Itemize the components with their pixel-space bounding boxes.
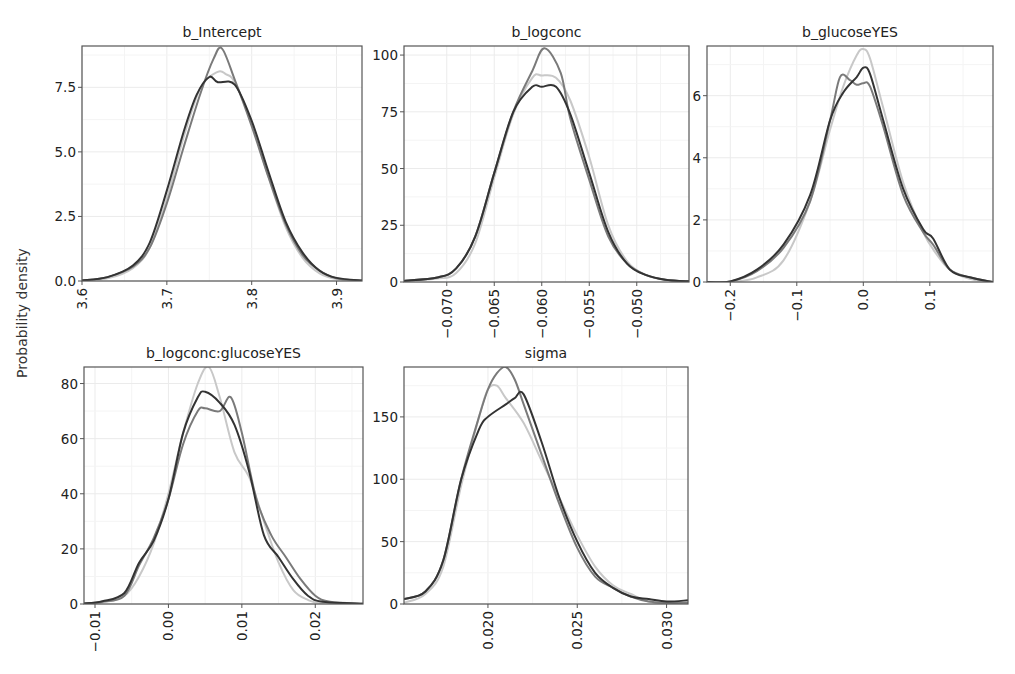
panel-title: b_Intercept [182,24,262,40]
y-tick-label: 40 [61,486,78,502]
x-tick-label: 3.8 [244,288,260,309]
y-tick-label: 100 [372,47,398,63]
x-tick-label: −0.1 [789,289,805,322]
y-tick-label: 25 [381,217,398,233]
panel-title: sigma [525,345,567,361]
x-tick-label: 0.0 [855,289,871,310]
y-tick-label: 4 [692,150,701,166]
panel-title: b_glucoseYES [802,24,898,40]
y-tick-label: 100 [372,471,398,487]
panel-b-logconc: b_logconc0255075100−0.070−0.065−0.060−0.… [372,24,689,339]
x-tick-label: −0.055 [581,289,597,339]
x-tick-label: 0.01 [234,611,250,641]
x-tick-label: −0.01 [87,611,103,652]
y-tick-label: 75 [381,104,398,120]
panel-b-intercept: b_Intercept0.02.55.07.53.63.73.83.9 [55,24,362,309]
y-tick-label: 150 [372,409,398,425]
y-tick-label: 50 [381,534,398,550]
y-tick-label: 20 [61,541,78,557]
y-tick-label: 0.0 [55,273,76,289]
x-tick-label: 0.1 [922,289,938,310]
x-tick-label: −0.060 [534,289,550,339]
y-tick-label: 0 [389,274,398,290]
x-tick-label: 0.02 [307,611,323,641]
y-tick-label: 0 [69,596,78,612]
y-tick-label: 0 [389,596,398,612]
x-tick-label: 0.025 [569,611,585,650]
y-tick-label: 2 [692,212,701,228]
x-tick-label: −0.2 [722,289,738,322]
x-tick-label: 0.00 [160,611,176,641]
figure: b_Intercept0.02.55.07.53.63.73.83.9b_log… [0,0,1015,674]
x-tick-label: 0.030 [659,611,675,650]
x-tick-label: −0.065 [486,289,502,339]
y-tick-label: 5.0 [55,144,76,160]
panel-title: b_logconc:glucoseYES [146,345,301,361]
x-tick-label: 3.6 [74,288,90,309]
y-tick-label: 6 [692,88,701,104]
panel-b-glucoseyes: b_glucoseYES0246−0.2−0.10.00.1 [692,24,993,322]
panel-b-logconc-glucoseyes: b_logconc:glucoseYES020406080−0.010.000.… [61,345,363,652]
y-tick-label: 60 [61,431,78,447]
x-tick-label: 3.7 [159,288,175,309]
x-tick-label: −0.050 [629,289,645,339]
panel-sigma: sigma0501001500.0200.0250.030 [372,345,688,650]
y-tick-label: 80 [61,376,78,392]
x-tick-label: 3.9 [329,288,345,309]
x-tick-label: 0.020 [480,611,496,650]
panel-title: b_logconc [511,24,581,40]
x-tick-label: −0.070 [439,289,455,339]
y-tick-label: 50 [381,161,398,177]
y-tick-label: 2.5 [55,208,76,224]
y-tick-label: 7.5 [55,79,76,95]
y-tick-label: 0 [692,274,701,290]
